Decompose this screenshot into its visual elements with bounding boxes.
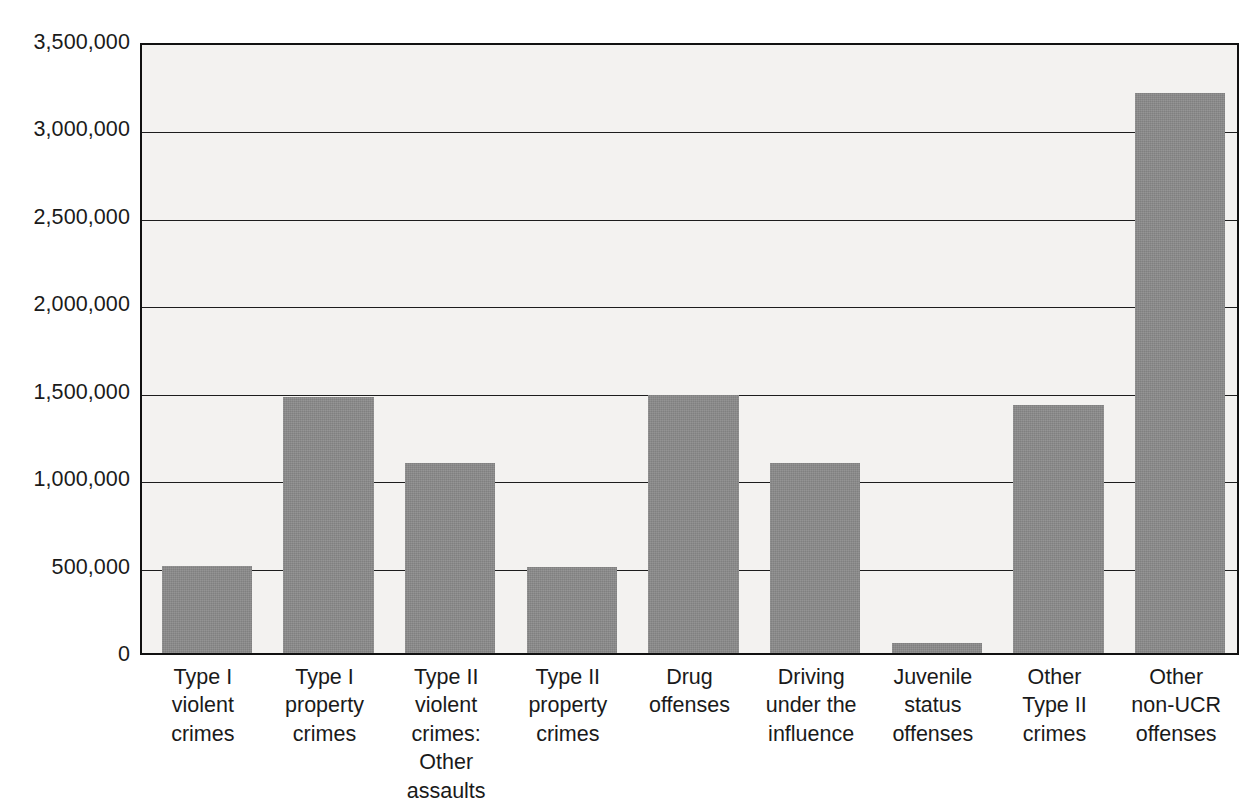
y-tick-label: 1,500,000: [0, 382, 130, 404]
bar[interactable]: [283, 397, 374, 653]
y-tick-label: 1,000,000: [0, 469, 130, 491]
bar[interactable]: [648, 395, 739, 653]
bar[interactable]: [527, 567, 618, 653]
bar-chart: 3,500,0003,000,0002,500,0002,000,0001,50…: [0, 0, 1249, 809]
bars-layer: [142, 45, 1237, 653]
x-tick-label: Driving under the influence: [750, 663, 872, 748]
bar[interactable]: [162, 566, 253, 653]
x-tick-label: Drug offenses: [629, 663, 751, 720]
bar[interactable]: [1013, 405, 1104, 653]
y-tick-label: 0: [0, 644, 130, 666]
x-tick-label: Other non-UCR offenses: [1115, 663, 1237, 748]
x-tick-label: Juvenile status offenses: [872, 663, 994, 748]
bar[interactable]: [892, 643, 983, 653]
bar[interactable]: [1135, 93, 1226, 653]
y-tick-label: 3,500,000: [0, 32, 130, 54]
bar[interactable]: [405, 463, 496, 653]
y-tick-label: 500,000: [0, 557, 130, 579]
x-tick-label: Type I property crimes: [264, 663, 386, 748]
x-tick-label: Type II property crimes: [507, 663, 629, 748]
y-tick-label: 2,500,000: [0, 207, 130, 229]
x-tick-label: Other Type II crimes: [994, 663, 1116, 748]
y-tick-label: 2,000,000: [0, 295, 130, 317]
y-tick-label: 3,000,000: [0, 120, 130, 142]
plot-inner: [142, 45, 1237, 653]
x-tick-label: Type II violent crimes: Other assaults: [385, 663, 507, 805]
x-tick-label: Type I violent crimes: [142, 663, 264, 748]
plot-area: [140, 43, 1239, 655]
bar[interactable]: [770, 463, 861, 653]
y-axis: 3,500,0003,000,0002,500,0002,000,0001,50…: [0, 0, 130, 809]
x-axis: Type I violent crimesType I property cri…: [140, 663, 1239, 809]
